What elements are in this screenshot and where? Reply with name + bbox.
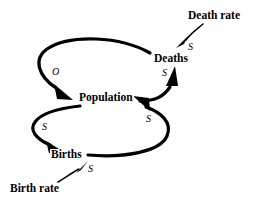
node-death-rate: Death rate: [188, 10, 240, 22]
node-deaths: Deaths: [153, 53, 189, 65]
arrowhead-into-deaths-bottom: [166, 66, 178, 86]
arrowhead-into-births-bottom: [76, 161, 88, 173]
polarity-label-deaths-population: O: [52, 67, 59, 77]
arrowhead-into-population-top: [54, 84, 73, 100]
polarity-label-population-births: S: [42, 122, 47, 132]
link-population-to-deaths: [140, 66, 178, 101]
causal-loop-diagram: Population Deaths Births Death rate Birt…: [0, 0, 259, 203]
polarity-label-population-deaths: S: [162, 68, 167, 78]
polarity-label-death-rate-deaths: S: [188, 42, 193, 52]
polarity-label-birth-rate-births: S: [88, 164, 93, 174]
node-population: Population: [78, 92, 134, 104]
link-population-to-births: [33, 106, 80, 153]
link-birth-rate-to-births: [58, 161, 88, 182]
arrowhead-into-deaths-top: [176, 36, 188, 48]
link-births-to-population: [88, 96, 169, 156]
node-birth-rate: Birth rate: [10, 183, 59, 195]
node-births: Births: [50, 149, 83, 161]
polarity-label-births-population: S: [146, 114, 151, 124]
